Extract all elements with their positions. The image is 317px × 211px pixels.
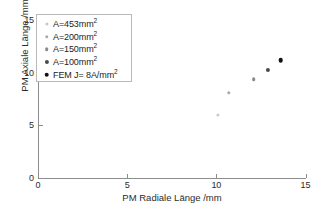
- legend-item: FEM J= 8A/mm2: [40, 68, 131, 81]
- legend-item: A=150mm2: [40, 43, 131, 56]
- legend-marker-dot-icon: [40, 43, 53, 55]
- legend-label: A=200mm2: [53, 32, 97, 42]
- legend-marker-dot-icon: [40, 31, 53, 43]
- legend-marker: [45, 48, 49, 52]
- legend-item: A=100mm2: [40, 56, 131, 69]
- legend-label: A=100mm2: [53, 57, 97, 67]
- x-tick-label: 10: [211, 180, 221, 190]
- y-tick-label: 0: [29, 173, 34, 183]
- data-point: [252, 77, 256, 81]
- x-tick-label: 0: [36, 180, 41, 190]
- x-axis-line: [38, 178, 306, 179]
- legend-marker: [44, 72, 49, 77]
- data-point: [266, 67, 270, 71]
- x-tick: [127, 174, 128, 178]
- legend-label: FEM J= 8A/mm2: [53, 70, 118, 80]
- x-axis-title: PM Radiale Länge /mm: [38, 192, 306, 203]
- legend-item: A=453mm2: [40, 18, 131, 31]
- legend-marker: [45, 23, 48, 26]
- legend-marker-dot-icon: [40, 69, 53, 81]
- y-tick: [39, 178, 43, 179]
- data-point: [217, 113, 220, 116]
- y-tick: [39, 125, 43, 126]
- y-axis-title: PM Axiale Länge /mm: [19, 0, 30, 126]
- legend-label: A=453mm2: [53, 19, 97, 29]
- legend-marker-dot-icon: [40, 18, 53, 30]
- legend-box: A=453mm2A=200mm2A=150mm2A=100mm2FEM J= 8…: [36, 14, 132, 82]
- x-tick: [306, 174, 307, 178]
- legend-marker: [44, 60, 48, 64]
- legend-item: A=200mm2: [40, 31, 131, 44]
- data-point: [227, 91, 230, 94]
- legend-marker: [45, 35, 48, 38]
- x-tick: [216, 174, 217, 178]
- chart-figure: 051015051015 PM Radiale Länge /mm PM Axi…: [0, 0, 317, 211]
- legend-marker-dot-icon: [40, 56, 53, 68]
- legend-label: A=150mm2: [53, 44, 97, 54]
- x-tick-label: 5: [125, 180, 130, 190]
- x-tick-label: 15: [301, 180, 311, 190]
- data-point: [278, 58, 283, 63]
- y-tick-label: 5: [29, 120, 34, 130]
